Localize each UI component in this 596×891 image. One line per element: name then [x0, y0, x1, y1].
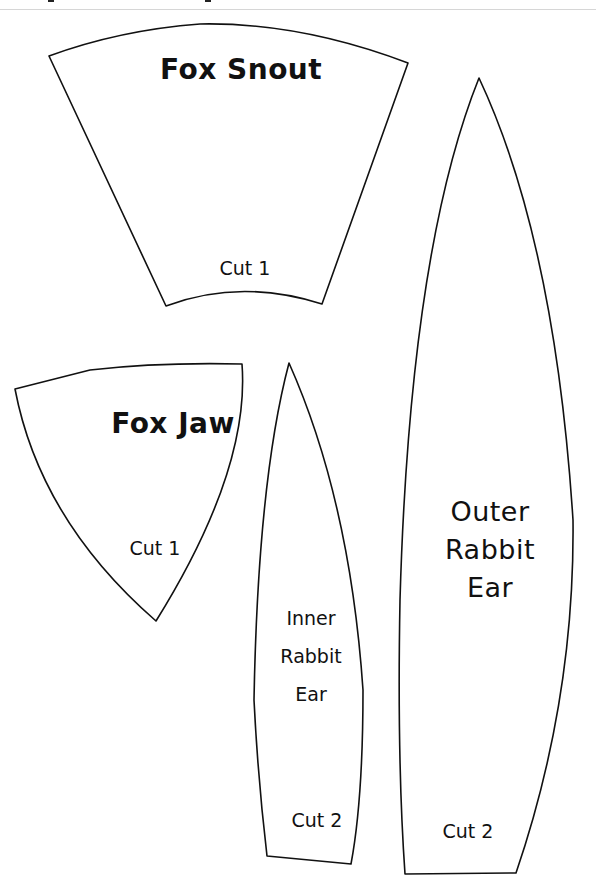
inner-ear-line-2: Rabbit	[280, 647, 341, 666]
pattern-outlines	[0, 0, 596, 891]
inner-rabbit-ear-title: Inner Rabbit Ear	[266, 609, 356, 704]
inner-rabbit-ear-cut-count: Cut 2	[277, 811, 357, 830]
inner-ear-line-1: Inner	[286, 609, 335, 628]
fox-jaw-title: Fox Jaw	[93, 410, 253, 438]
outer-rabbit-ear-cut-count: Cut 2	[428, 822, 508, 841]
outer-rabbit-ear-title: Outer Rabbit Ear	[440, 498, 540, 601]
inner-ear-line-3: Ear	[295, 685, 326, 704]
outer-rabbit-ear-outline	[399, 78, 573, 874]
outer-ear-line-3: Ear	[467, 574, 513, 601]
outer-ear-line-1: Outer	[450, 498, 529, 525]
fox-snout-title: Fox Snout	[160, 56, 310, 84]
fox-snout-cut-count: Cut 1	[205, 259, 285, 278]
fox-jaw-outline	[15, 364, 243, 621]
fox-jaw-cut-count: Cut 1	[115, 539, 195, 558]
outer-ear-line-2: Rabbit	[445, 536, 535, 563]
